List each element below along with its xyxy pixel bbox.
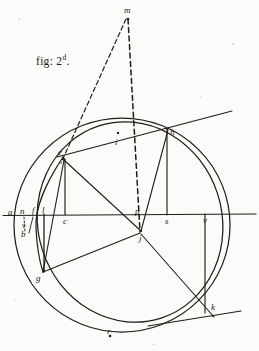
chord-e-g — [43, 160, 64, 272]
paper-speck — [18, 18, 20, 20]
label-point-v-right: v — [203, 216, 207, 225]
chord-j-g — [43, 233, 140, 272]
dashed-line-m-to-j — [128, 19, 140, 232]
tangent-line-through-e-h — [57, 111, 232, 157]
paper-speck — [152, 344, 155, 345]
label-point-k: k — [211, 303, 215, 312]
label-point-i: i — [115, 138, 118, 147]
label-point-s: s — [165, 217, 169, 226]
tick-mark-f — [29, 217, 33, 233]
geometric-diagram — [0, 0, 259, 351]
tangent-line-at-k — [148, 311, 241, 326]
label-point-p: p — [135, 207, 140, 216]
figure-caption: fig: 2d. — [36, 55, 70, 67]
paper-speck — [74, 258, 76, 259]
point-marker-m — [127, 18, 130, 21]
point-marker-i — [117, 132, 119, 134]
label-point-l: l — [42, 206, 45, 215]
label-point-b: b — [21, 230, 26, 239]
label-point-g: g — [36, 274, 41, 283]
label-point-j: j — [139, 234, 142, 243]
label-point-e: e — [58, 148, 62, 157]
point-marker-g — [43, 270, 45, 272]
paper-speck — [14, 300, 16, 301]
label-point-h: h — [170, 128, 175, 137]
point-marker-j — [140, 230, 142, 232]
label-point-f: f — [32, 206, 35, 215]
paper-speck — [232, 43, 234, 45]
chord-e-j — [64, 160, 141, 231]
outer-circle — [14, 118, 230, 332]
point-marker-e — [63, 158, 65, 160]
horizontal-axis — [3, 214, 256, 216]
label-point-m: m — [124, 6, 131, 15]
chord-j-k — [141, 234, 214, 317]
label-point-n: n — [20, 207, 25, 216]
chord-j-h — [141, 130, 168, 231]
figure-caption-suffix: . — [66, 55, 69, 67]
point-marker-k — [212, 315, 214, 317]
point-marker-h — [166, 128, 168, 130]
label-point-r: r — [107, 327, 111, 336]
inner-left-arc — [36, 157, 63, 272]
figure-root: fig: 2d. m i h e a n f l c p s v j v b g… — [0, 0, 259, 351]
label-point-c: c — [63, 217, 67, 226]
figure-caption-prefix: fig: 2 — [36, 55, 62, 67]
paper-speck — [200, 96, 201, 98]
label-point-a: a — [8, 208, 13, 217]
